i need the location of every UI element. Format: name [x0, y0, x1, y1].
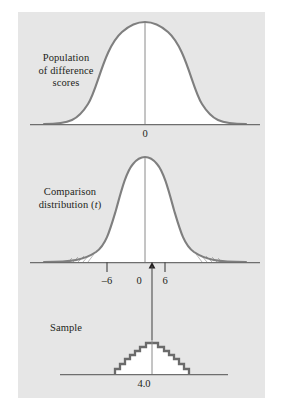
population-caption-line-3: scores	[14, 77, 118, 90]
comparison-axis-label-neg6: –6	[98, 275, 116, 287]
sample-caption: Sample	[14, 322, 118, 335]
sample-caption-text: Sample	[14, 322, 118, 335]
comparison-caption: Comparison distribution (t)	[14, 186, 126, 211]
statistics-figure: Population of difference scores Comparis…	[0, 0, 283, 415]
comparison-caption-suffix: )	[98, 199, 102, 210]
comparison-caption-line-1: Comparison	[14, 186, 126, 199]
sample-score-arrow	[149, 262, 156, 290]
sample-axis-label-value: 4.0	[129, 378, 159, 390]
sample-panel-graphic	[60, 340, 228, 375]
comparison-axis-label-6: 6	[158, 275, 172, 287]
comparison-caption-prefix: distribution (	[39, 199, 95, 210]
comparison-caption-line-2: distribution (t)	[14, 199, 126, 212]
population-caption-line-2: of difference	[14, 65, 118, 78]
population-caption: Population of difference scores	[14, 52, 118, 90]
comparison-panel-graphic	[30, 157, 260, 340]
population-caption-line-1: Population	[14, 52, 118, 65]
comparison-axis-label-zero: 0	[132, 275, 146, 287]
population-axis-label-zero: 0	[138, 128, 152, 140]
